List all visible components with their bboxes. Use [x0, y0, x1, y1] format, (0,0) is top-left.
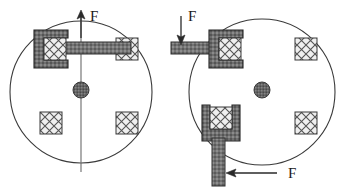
right-force-label-bottom: F — [288, 165, 296, 181]
right-force-label-top: F — [188, 8, 196, 24]
right-pad-bottom-left — [210, 107, 232, 129]
left-pad-bottom-right — [116, 112, 138, 134]
diagram-canvas: F — [0, 0, 350, 196]
left-hub — [73, 82, 89, 98]
left-arm-horizontal — [62, 42, 131, 54]
left-force-arrow-up — [77, 10, 85, 38]
right-arm-vertical — [212, 138, 225, 186]
right-figure-group: F F — [171, 8, 335, 186]
right-force-arrow-left — [226, 169, 277, 177]
left-pad-top-left — [44, 38, 66, 60]
right-pad-top-left — [219, 38, 241, 60]
right-arm-horizontal — [171, 42, 215, 54]
right-pad-top-right — [295, 38, 317, 60]
right-pad-bottom-right — [295, 112, 317, 134]
left-force-label: F — [90, 8, 98, 24]
right-force-arrow-down — [177, 16, 185, 45]
left-figure-group: F — [10, 8, 152, 172]
right-hub — [254, 82, 270, 98]
mechanical-diagram: F — [0, 0, 350, 196]
left-pad-bottom-left — [40, 112, 62, 134]
